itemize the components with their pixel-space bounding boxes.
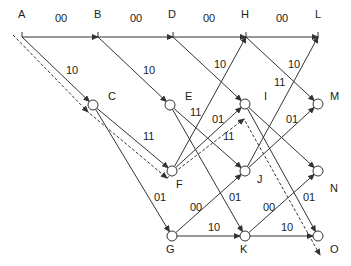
node-label-F: F <box>176 178 183 190</box>
node-label-C: C <box>108 90 116 102</box>
edge-I-O <box>247 108 315 231</box>
node-label-N: N <box>330 182 338 194</box>
node-label-J: J <box>257 173 263 185</box>
edge-label-H-M: 10 <box>288 58 300 70</box>
node-C <box>88 100 98 110</box>
edge-label-J-M: 01 <box>286 113 298 125</box>
node-G <box>167 231 177 241</box>
node-label-K: K <box>240 243 248 255</box>
edge-label-B-E: 10 <box>143 64 155 76</box>
edge-label-E-J: 11 <box>190 106 201 118</box>
node-label-G: G <box>166 243 175 255</box>
node-label-B: B <box>94 8 101 20</box>
trellis-nodes: ABDHLCEIMFJNGKO <box>18 8 339 255</box>
node-label-A: A <box>18 8 26 20</box>
trellis-canvas: ABDHLCEIMFJNGKO 000000001010101011011101… <box>0 0 351 266</box>
edge-label-E-K: 01 <box>229 191 241 203</box>
edge-A-C <box>22 37 89 102</box>
edge-labels: 0000000010101010110111010100101101110100… <box>55 12 315 233</box>
edge-label-C-F: 11 <box>143 130 154 142</box>
trellis-diagram: ABDHLCEIMFJNGKO 000000001010101011011101… <box>0 0 351 266</box>
node-F <box>167 166 177 176</box>
node-E <box>165 100 175 110</box>
edge-D-I <box>173 37 241 101</box>
edge-label-G-J: 00 <box>190 201 202 213</box>
node-N <box>313 166 323 176</box>
edge-label-K-O: 10 <box>281 221 293 233</box>
edge-label-C-G: 01 <box>154 191 166 203</box>
edge-label-D-H: 00 <box>203 12 215 24</box>
edge-label-I-N: 11 <box>223 130 234 142</box>
node-label-D: D <box>168 8 176 20</box>
node-M <box>313 99 323 109</box>
edge-label-G-K: 10 <box>208 221 220 233</box>
dashed-path-arrowhead <box>165 177 167 178</box>
edge-label-H-L: 00 <box>276 12 288 24</box>
node-label-L: L <box>315 8 321 20</box>
node-label-E: E <box>185 90 192 102</box>
node-label-I: I <box>264 90 267 102</box>
edge-label-J-L: 11 <box>274 76 285 88</box>
edge-label-D-I: 10 <box>214 58 226 70</box>
node-label-M: M <box>330 90 339 102</box>
edge-label-A-B: 00 <box>55 12 67 24</box>
edge-label-F-I: 01 <box>212 113 224 125</box>
edge-label-K-N: 00 <box>263 201 275 213</box>
edge-J-L <box>247 37 318 167</box>
edge-H-M <box>246 37 314 101</box>
node-K <box>240 231 250 241</box>
edge-C-F <box>97 108 168 168</box>
node-I <box>240 99 250 109</box>
dashed-path-arrowhead <box>87 111 88 112</box>
edge-label-B-D: 00 <box>130 12 142 24</box>
node-label-H: H <box>241 8 249 20</box>
node-J <box>240 166 250 176</box>
node-O <box>313 231 323 241</box>
dashed-path-arrowhead <box>242 119 244 120</box>
node-label-O: O <box>330 243 339 255</box>
edge-label-A-C: 10 <box>66 64 78 76</box>
edge-label-I-O: 01 <box>303 191 315 203</box>
